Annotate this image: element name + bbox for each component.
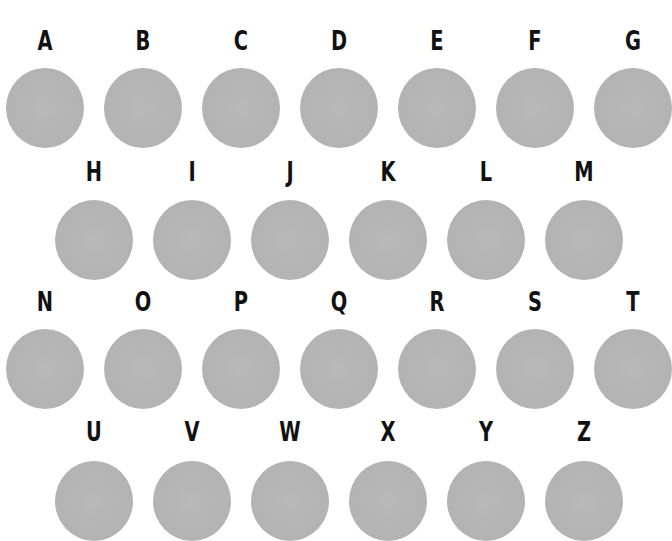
dot-m[interactable] bbox=[545, 200, 623, 280]
letter-label-y: Y bbox=[472, 417, 501, 447]
dot-b[interactable] bbox=[104, 68, 182, 148]
dot-p[interactable] bbox=[202, 329, 280, 409]
dot-z[interactable] bbox=[545, 461, 623, 541]
letter-label-p: P bbox=[227, 287, 256, 317]
letter-label-i: I bbox=[178, 157, 207, 187]
dot-j[interactable] bbox=[251, 200, 329, 280]
dot-l[interactable] bbox=[447, 200, 525, 280]
letter-label-f: F bbox=[521, 26, 550, 56]
dot-n[interactable] bbox=[6, 329, 84, 409]
letter-label-q: Q bbox=[325, 287, 354, 317]
letter-label-o: O bbox=[129, 287, 158, 317]
dot-s[interactable] bbox=[496, 329, 574, 409]
dot-i[interactable] bbox=[153, 200, 231, 280]
letter-label-n: N bbox=[31, 287, 60, 317]
letter-label-x: X bbox=[374, 417, 403, 447]
letter-label-k: K bbox=[374, 157, 403, 187]
letter-label-z: Z bbox=[570, 417, 599, 447]
letter-label-b: B bbox=[129, 26, 158, 56]
dot-a[interactable] bbox=[6, 68, 84, 148]
dot-f[interactable] bbox=[496, 68, 574, 148]
dot-o[interactable] bbox=[104, 329, 182, 409]
dot-v[interactable] bbox=[153, 461, 231, 541]
dot-h[interactable] bbox=[55, 200, 133, 280]
dot-g[interactable] bbox=[594, 68, 672, 148]
dot-k[interactable] bbox=[349, 200, 427, 280]
letter-label-u: U bbox=[80, 417, 109, 447]
letter-label-d: D bbox=[325, 26, 354, 56]
letter-label-s: S bbox=[521, 287, 550, 317]
letter-label-l: L bbox=[472, 157, 501, 187]
dot-x[interactable] bbox=[349, 461, 427, 541]
letter-label-j: J bbox=[276, 157, 305, 187]
letter-label-a: A bbox=[31, 26, 60, 56]
letter-label-h: H bbox=[80, 157, 109, 187]
dot-e[interactable] bbox=[398, 68, 476, 148]
dot-c[interactable] bbox=[202, 68, 280, 148]
dot-y[interactable] bbox=[447, 461, 525, 541]
letter-label-g: G bbox=[619, 26, 648, 56]
letter-label-m: M bbox=[570, 157, 599, 187]
dot-w[interactable] bbox=[251, 461, 329, 541]
letter-label-c: C bbox=[227, 26, 256, 56]
letter-label-t: T bbox=[619, 287, 648, 317]
dot-q[interactable] bbox=[300, 329, 378, 409]
dot-u[interactable] bbox=[55, 461, 133, 541]
letter-label-e: E bbox=[423, 26, 452, 56]
dot-d[interactable] bbox=[300, 68, 378, 148]
dot-t[interactable] bbox=[594, 329, 672, 409]
letter-label-w: W bbox=[276, 417, 305, 447]
letter-label-r: R bbox=[423, 287, 452, 317]
letter-label-v: V bbox=[178, 417, 207, 447]
dot-r[interactable] bbox=[398, 329, 476, 409]
